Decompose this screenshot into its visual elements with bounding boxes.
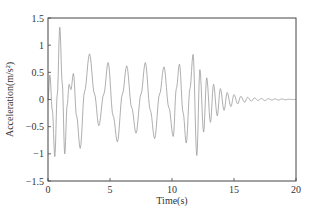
chart: 05101520 1.510.50−0.5−1−1.5 Time(s) Acce… bbox=[0, 0, 313, 210]
y-tick-label: −1.5 bbox=[26, 176, 44, 187]
y-tick-label: 0.5 bbox=[32, 67, 45, 78]
x-tick-label: 20 bbox=[291, 184, 301, 195]
y-tick-label: 1 bbox=[39, 40, 44, 51]
y-tick-label: 0 bbox=[39, 94, 44, 105]
x-tick-label: 5 bbox=[108, 184, 113, 195]
y-tick-label: 1.5 bbox=[32, 13, 45, 24]
x-tick-label: 0 bbox=[46, 184, 51, 195]
y-tick-label: −0.5 bbox=[26, 121, 44, 132]
x-axis-label: Time(s) bbox=[156, 195, 187, 207]
x-tick-label: 15 bbox=[229, 184, 239, 195]
y-tick-label: −1 bbox=[33, 148, 44, 159]
x-tick-label: 10 bbox=[167, 184, 177, 195]
y-axis-label: Acceleration(m/s²) bbox=[4, 62, 16, 137]
plot-background bbox=[0, 0, 313, 210]
